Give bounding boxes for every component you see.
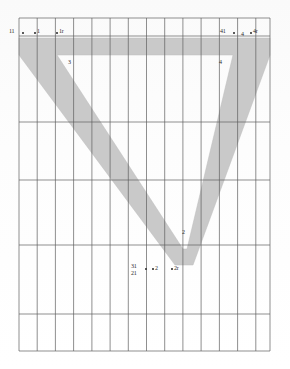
label-point-11: 11	[9, 28, 14, 34]
label-point-1r: 1r	[59, 28, 64, 34]
label-point-2r: 2r	[174, 265, 179, 271]
label-point-41: 41	[220, 28, 226, 34]
label-point-4r: 4r	[253, 28, 258, 34]
label-mark-3: 3	[68, 59, 71, 65]
dot-point-41	[233, 32, 235, 34]
plot-area: 11 1 1r 41 4 4r 31 21 2	[17, 17, 272, 352]
diagram-canvas: 11 1 1r 41 4 4r 31 21 2	[0, 0, 290, 369]
dot-point-2r	[171, 268, 173, 270]
label-point-4-top: 4	[241, 31, 244, 37]
label-mark-4: 4	[219, 59, 222, 65]
dot-point-4r	[250, 32, 252, 34]
grid-and-shape	[17, 17, 272, 352]
dot-point-11	[22, 32, 24, 34]
dot-point-2-bottom	[152, 268, 154, 270]
dot-point-21	[145, 268, 147, 270]
label-point-31: 31	[131, 263, 137, 269]
dot-point-1	[34, 32, 36, 34]
v-band-path	[19, 38, 270, 265]
v-band-shape	[19, 38, 270, 265]
label-point-21: 21	[131, 270, 137, 276]
dot-point-1r	[56, 32, 58, 34]
label-point-2-bottom: 2	[155, 265, 158, 271]
label-mark-2: 2	[182, 229, 185, 235]
label-point-1: 1	[37, 28, 40, 34]
